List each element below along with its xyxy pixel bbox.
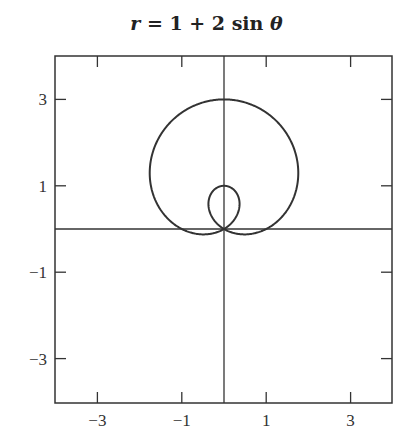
tick-labels: −3−11331−1−3: [29, 90, 355, 430]
y-tick-label: 3: [39, 90, 48, 109]
x-tick-label: −3: [88, 411, 106, 430]
x-tick-label: 1: [262, 411, 271, 430]
x-tick-label: −1: [173, 411, 191, 430]
y-tick-label: 1: [39, 177, 48, 196]
x-tick-label: 3: [346, 411, 355, 430]
y-tick-label: −3: [29, 350, 47, 369]
plot-area: −3−11331−1−3: [0, 0, 413, 446]
y-tick-label: −1: [29, 263, 47, 282]
